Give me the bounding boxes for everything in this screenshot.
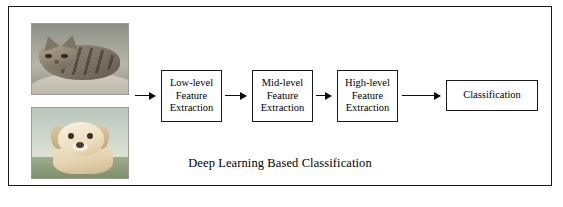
low-level-feature-extraction-box: Low-level Feature Extraction: [161, 70, 222, 122]
figure-canvas: Low-level Feature Extraction Mid-level F…: [0, 0, 563, 207]
classification-label: Classification: [463, 89, 521, 102]
figure-caption: Deep Learning Based Classification: [9, 156, 551, 171]
high-level-feature-extraction-box: High-level Feature Extraction: [337, 70, 398, 122]
arrow-low-to-mid-level: [225, 95, 246, 96]
dog-nose: [76, 142, 84, 148]
cat-eye-right: [61, 54, 68, 58]
low-level-feature-extraction-label: Low-level Feature Extraction: [170, 77, 214, 115]
high-level-feature-extraction-label: High-level Feature Extraction: [345, 77, 390, 115]
classification-box: Classification: [446, 80, 538, 111]
arrow-high-to-classification: [402, 95, 440, 96]
arrow-mid-to-high-level: [316, 95, 331, 96]
mid-level-feature-extraction-label: Mid-level Feature Extraction: [261, 77, 305, 115]
cat-ear-right: [62, 33, 80, 49]
cat-image: [31, 23, 129, 95]
dog-eye-right: [87, 133, 93, 139]
mid-level-feature-extraction-box: Mid-level Feature Extraction: [252, 70, 313, 122]
arrow-input-to-low-level: [135, 95, 155, 96]
figure-frame: Low-level Feature Extraction Mid-level F…: [8, 6, 552, 186]
